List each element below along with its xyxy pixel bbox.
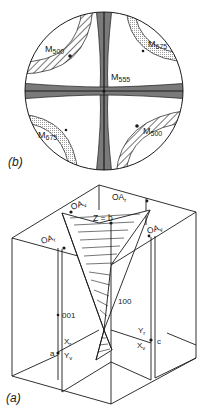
label-oa-r-left: OAr xyxy=(40,232,57,247)
label-x-r: Xr xyxy=(64,337,71,347)
optic-axis-dot xyxy=(135,124,139,128)
label-x-v: Xv xyxy=(137,341,145,351)
label-y-r: Yr xyxy=(138,326,145,336)
optic-axis-dot xyxy=(65,129,68,132)
m675-band-top-right xyxy=(126,8,190,62)
label-direction-001: 001 xyxy=(62,311,76,320)
label-direction-100: 100 xyxy=(118,297,132,306)
caption-b: (b) xyxy=(8,155,23,169)
label-y-v: Yv xyxy=(64,351,72,361)
m500-band-bottom-right xyxy=(116,110,190,175)
label-oa-r-top-right: OAr xyxy=(112,192,126,203)
label-m500-top-left: M500 xyxy=(45,44,64,55)
m500-band-top-left xyxy=(20,8,93,74)
caption-a: (a) xyxy=(6,391,21,405)
optic-axis-dot xyxy=(68,54,72,58)
optic-axis-dot xyxy=(142,50,145,53)
label-axis-a: a xyxy=(50,349,55,358)
label-axis-c: c xyxy=(157,337,161,346)
label-oa-v-right: OAv xyxy=(146,222,164,237)
label-m555-center: M555 xyxy=(111,72,130,83)
m675-band-bottom-left xyxy=(20,114,78,175)
label-oa-v-top-left: OAv xyxy=(69,197,87,213)
label-z-eq-b: Z = b xyxy=(93,213,113,223)
optical-indicatrix-figure: M500 M675 M555 M675 M500 (b) xyxy=(0,0,210,411)
figure-b-stereogram: M500 M675 M555 M675 M500 (b) xyxy=(8,8,190,175)
